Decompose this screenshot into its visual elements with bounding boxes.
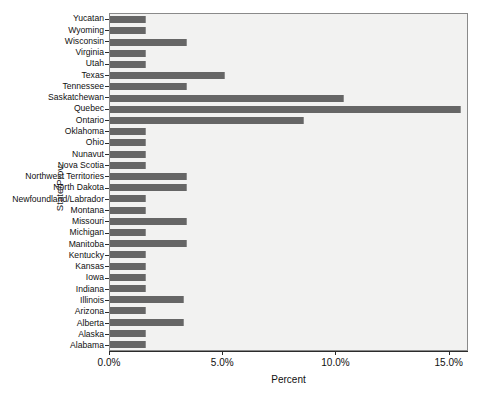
bar (110, 285, 146, 292)
bar-row (110, 272, 467, 283)
bar-row (110, 104, 467, 115)
bar-row (110, 249, 467, 260)
y-axis-label: Ontario (34, 114, 105, 125)
y-axis-label: Wyoming (34, 24, 105, 35)
bar-row (110, 283, 467, 294)
bar (110, 117, 304, 124)
bar-row (110, 25, 467, 36)
bar-row (110, 59, 467, 70)
y-axis-label: North Dakota (34, 182, 105, 193)
bar (110, 173, 187, 180)
bar-row (110, 238, 467, 249)
bar-row (110, 193, 467, 204)
bar (110, 50, 146, 57)
bar-row (110, 216, 467, 227)
y-axis-label: Utah (34, 58, 105, 69)
y-axis-label: Virginia (34, 47, 105, 58)
bar-row (110, 81, 467, 92)
x-axis-line (109, 351, 468, 352)
bar (110, 240, 187, 247)
y-axis-label: Wisconsin (34, 36, 105, 47)
bar (110, 61, 146, 68)
y-axis-label: Indiana (34, 283, 105, 294)
bar (110, 95, 344, 102)
bar (110, 263, 146, 270)
bar (110, 274, 146, 281)
y-axis-label: Saskatchewan (34, 92, 105, 103)
bar (110, 207, 146, 214)
bar-row (110, 182, 467, 193)
bar (110, 330, 146, 337)
y-axis-label: Manitoba (34, 238, 105, 249)
bar-row (110, 115, 467, 126)
x-axis-tick-label: 15.0% (435, 357, 463, 368)
y-axis-label: Alaska (34, 328, 105, 339)
bar (110, 341, 146, 348)
bar-row (110, 227, 467, 238)
y-axis-label: Michigan (34, 227, 105, 238)
y-axis-label: Illinois (34, 295, 105, 306)
bar (110, 139, 146, 146)
bar-row (110, 305, 467, 316)
y-axis-label: Texas (34, 69, 105, 80)
y-axis-label: Newfoundland/Labrador (34, 193, 105, 204)
y-axis-label: Iowa (34, 272, 105, 283)
x-axis-tick (222, 351, 223, 355)
y-axis-label: Oklahoma (34, 126, 105, 137)
y-axis-tick-labels: YucatanWyomingWisconsinVirginiaUtahTexas… (34, 13, 105, 351)
y-axis-label: Quebec (34, 103, 105, 114)
plot-area (109, 13, 468, 351)
bar (110, 319, 184, 326)
bar-row (110, 204, 467, 215)
y-axis-label: Arizona (34, 306, 105, 317)
bar (110, 251, 146, 258)
x-axis-title: Percent (109, 374, 468, 385)
y-axis-label: Missouri (34, 216, 105, 227)
x-axis-tick-label: 5.0% (211, 357, 234, 368)
bar-row (110, 36, 467, 47)
y-axis-label: Ohio (34, 137, 105, 148)
bar (110, 218, 187, 225)
x-axis-tick-label: 10.0% (321, 357, 349, 368)
bar (110, 307, 146, 314)
bar-row (110, 260, 467, 271)
y-axis-label: Kansas (34, 261, 105, 272)
x-axis-tick (449, 351, 450, 355)
y-axis-label: Alberta (34, 317, 105, 328)
bar-chart: State/Prov. YucatanWyomingWisconsinVirgi… (0, 0, 487, 397)
bar (110, 184, 187, 191)
y-axis-label: Yucatan (34, 13, 105, 24)
x-axis-tick-label: 0.0% (98, 357, 121, 368)
bar (110, 162, 146, 169)
bar (110, 106, 461, 113)
bar (110, 27, 146, 34)
bar-row (110, 14, 467, 25)
bar-row (110, 328, 467, 339)
bar-row (110, 70, 467, 81)
y-axis-label: Kentucky (34, 250, 105, 261)
bar (110, 296, 184, 303)
bar (110, 151, 146, 158)
bar-row (110, 171, 467, 182)
bar-row (110, 160, 467, 171)
bar (110, 72, 225, 79)
bar (110, 16, 146, 23)
bar-series (110, 14, 467, 350)
bar (110, 83, 187, 90)
bar-row (110, 148, 467, 159)
bar (110, 128, 146, 135)
bar-row (110, 126, 467, 137)
y-axis-label: Alabama (34, 340, 105, 351)
y-axis-label: Tennessee (34, 81, 105, 92)
x-axis-tick (335, 351, 336, 355)
bar-row (110, 316, 467, 327)
y-axis-label: Northwest Territories (34, 171, 105, 182)
y-axis-label: Montana (34, 205, 105, 216)
bar-row (110, 92, 467, 103)
bar (110, 195, 146, 202)
bar-row (110, 294, 467, 305)
bar-row (110, 339, 467, 350)
x-axis-tick (109, 351, 110, 355)
y-axis-label: Nunavut (34, 148, 105, 159)
bar-row (110, 137, 467, 148)
